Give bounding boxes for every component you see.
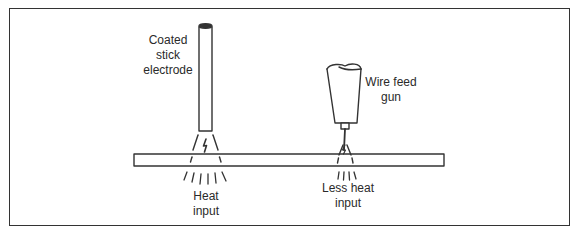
workpiece-plate [134, 154, 444, 166]
label-coated-stick-electrode: Coated stick electrode [140, 33, 196, 78]
label-line: input [178, 204, 234, 219]
label-line: Coated [140, 33, 196, 48]
label-line: gun [363, 90, 419, 105]
label-less-heat-input: Less heat input [316, 181, 380, 211]
label-wire-feed-gun: Wire feed gun [363, 75, 419, 105]
welding-diagram [0, 0, 578, 233]
label-line: electrode [140, 63, 196, 78]
label-line: input [316, 196, 380, 211]
coated-stick-electrode [199, 24, 212, 131]
label-line: Wire feed [363, 75, 419, 90]
wire-feed-gun [327, 64, 361, 150]
heat-lines-wire [338, 172, 356, 180]
label-line: Less heat [316, 181, 380, 196]
lightning-bolt-icon [204, 139, 207, 152]
label-line: Heat [178, 189, 234, 204]
label-heat-input: Heat input [178, 189, 234, 219]
heat-lines-stick [184, 172, 226, 184]
label-line: stick [140, 48, 196, 63]
